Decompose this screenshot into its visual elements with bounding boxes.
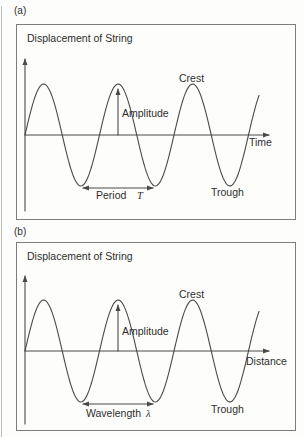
y-axis-title: Displacement of String bbox=[27, 32, 133, 44]
amplitude-label: Amplitude bbox=[122, 107, 169, 119]
x-axis-label: Distance bbox=[246, 355, 287, 367]
y-axis-title: Displacement of String bbox=[27, 250, 133, 262]
panel-a-box: Displacement of String Crest Amplitude T… bbox=[16, 24, 296, 220]
scan-edge-artifact bbox=[1, 6, 2, 437]
period-symbol: T bbox=[137, 190, 144, 201]
trough-label: Trough bbox=[211, 186, 244, 198]
panel-a-diagram: Displacement of String Crest Amplitude T… bbox=[17, 25, 295, 219]
amplitude-label: Amplitude bbox=[122, 325, 169, 337]
x-axis-label: Time bbox=[249, 136, 272, 148]
crest-label: Crest bbox=[179, 72, 204, 84]
panel-b-tag: (b) bbox=[14, 226, 26, 238]
crest-label: Crest bbox=[179, 288, 204, 300]
panel-b-diagram: Displacement of String Crest Amplitude D… bbox=[17, 243, 295, 430]
wavelength-label: Wavelength bbox=[86, 407, 141, 419]
panel-b-box: Displacement of String Crest Amplitude D… bbox=[16, 242, 296, 431]
period-label: Period bbox=[96, 189, 127, 201]
trough-label: Trough bbox=[211, 403, 244, 415]
wavelength-symbol: λ bbox=[145, 408, 151, 419]
panel-a-tag: (a) bbox=[14, 5, 26, 17]
figure: (a) Displacement of String Crest Amplitu… bbox=[0, 0, 304, 437]
